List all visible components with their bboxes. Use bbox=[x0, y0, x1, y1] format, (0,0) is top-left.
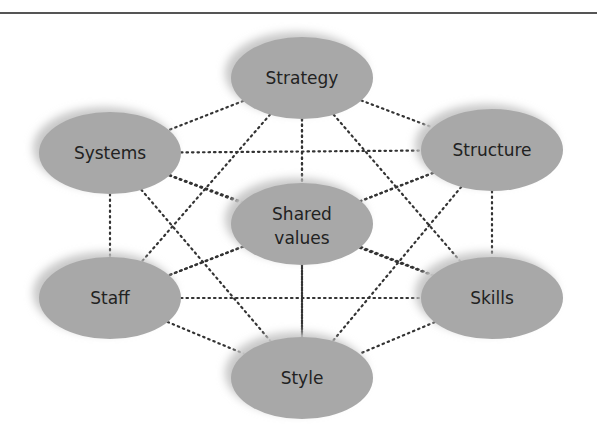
node-label: Style bbox=[281, 368, 324, 388]
node-ellipse bbox=[231, 183, 373, 265]
connector-strategy-structure bbox=[361, 100, 432, 127]
connector-strategy-systems bbox=[169, 101, 243, 130]
node-label: Strategy bbox=[266, 68, 339, 88]
node-systems: Systems bbox=[33, 107, 181, 194]
connector-staff-style bbox=[168, 322, 245, 354]
node-label: Staff bbox=[90, 288, 131, 308]
node-label: Skills bbox=[470, 288, 514, 308]
connector-shared-staff bbox=[169, 247, 243, 275]
node-label: Shared bbox=[272, 204, 332, 224]
node-label: values bbox=[274, 228, 329, 248]
connector-skills-style bbox=[359, 322, 434, 354]
node-shared: Sharedvalues bbox=[225, 178, 373, 265]
seven-s-diagram: StrategySystemsStructureSharedvaluesStaf… bbox=[0, 0, 597, 424]
node-label: Systems bbox=[74, 143, 146, 163]
node-skills: Skills bbox=[415, 252, 563, 339]
node-label: Structure bbox=[452, 140, 531, 160]
node-strategy: Strategy bbox=[225, 32, 373, 119]
node-structure: Structure bbox=[415, 104, 563, 191]
node-style: Style bbox=[225, 332, 373, 419]
node-staff: Staff bbox=[33, 252, 181, 339]
connector-shared-skills bbox=[361, 247, 433, 275]
